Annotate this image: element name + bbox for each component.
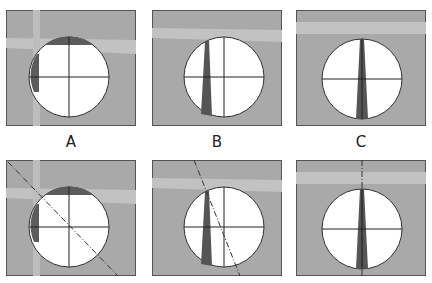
panel-c-top	[296, 10, 426, 126]
label-c: C	[296, 133, 426, 151]
panel-a-bottom	[6, 160, 136, 276]
panel-b-bottom	[152, 160, 282, 276]
road-band	[296, 22, 426, 34]
label-a: A	[6, 133, 136, 151]
label-b: B	[152, 133, 282, 151]
panel-a-top	[6, 10, 136, 126]
panel-b-top	[152, 10, 282, 126]
panel-c-bottom	[296, 160, 426, 276]
